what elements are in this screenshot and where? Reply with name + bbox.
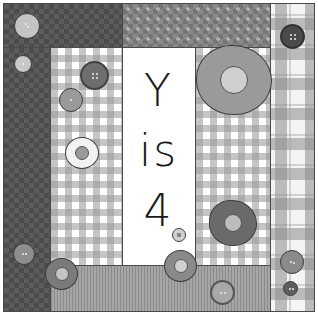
button-decoration-icon (14, 55, 32, 73)
button-decoration-icon (210, 280, 235, 305)
button-decoration-icon (80, 61, 109, 90)
letter-y: Y (122, 69, 195, 113)
word-is: is (122, 129, 195, 173)
yoyo-flower-icon (196, 45, 272, 115)
button-decoration-icon (13, 243, 35, 265)
top-middle-argyle-panel (122, 3, 271, 48)
yoyo-flower-icon (65, 137, 99, 169)
yoyo-flower-icon (45, 258, 78, 290)
button-decoration-icon (283, 281, 298, 296)
button-decoration-icon (172, 228, 186, 242)
yoyo-flower-icon (209, 200, 257, 246)
bottom-basketweave-panel (50, 265, 271, 312)
yoyo-flower-icon (164, 250, 197, 282)
number-4: 4 (122, 189, 195, 233)
button-decoration-icon (14, 13, 40, 39)
button-decoration-icon (280, 250, 304, 274)
button-decoration-icon (59, 88, 83, 112)
left-dark-strip-panel (3, 47, 51, 312)
button-decoration-icon (280, 24, 305, 49)
